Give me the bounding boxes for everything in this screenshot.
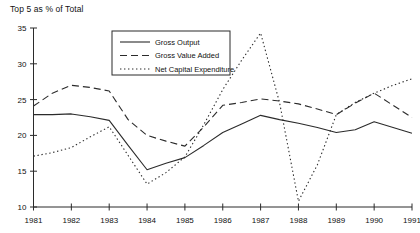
series-line (34, 114, 413, 170)
x-tick-label: 1981 (25, 216, 43, 225)
chart-plot: 101520253035 198119821983198419851986198… (0, 0, 420, 233)
x-tick-label: 1988 (290, 216, 308, 225)
y-axis: 101520253035 (18, 24, 37, 212)
x-tick-label: 1983 (100, 216, 118, 225)
x-tick-label: 1984 (138, 216, 156, 225)
y-tick-label: 10 (18, 203, 27, 212)
x-tick-label: 1990 (365, 216, 383, 225)
chart-legend: Gross OutputGross Value AddedNet Capital… (112, 31, 234, 75)
y-tick-label: 15 (18, 167, 27, 176)
x-tick-label: 1991 (403, 216, 420, 225)
x-tick-label: 1982 (62, 216, 80, 225)
y-tick-label: 30 (18, 60, 27, 69)
legend-label: Net Capital Expenditure (155, 65, 234, 74)
legend-label: Gross Output (155, 38, 201, 47)
x-tick-label: 1989 (327, 216, 345, 225)
chart-container: Top 5 as % of Total 101520253035 1981198… (0, 0, 420, 233)
y-tick-label: 20 (18, 131, 27, 140)
x-tick-label: 1987 (252, 216, 270, 225)
legend-label: Gross Value Added (155, 51, 219, 60)
y-tick-label: 35 (18, 24, 27, 33)
x-tick-label: 1986 (214, 216, 232, 225)
x-axis: 1981198219831984198519861987198819891990… (25, 204, 420, 226)
x-tick-label: 1985 (176, 216, 194, 225)
y-tick-label: 25 (18, 96, 27, 105)
